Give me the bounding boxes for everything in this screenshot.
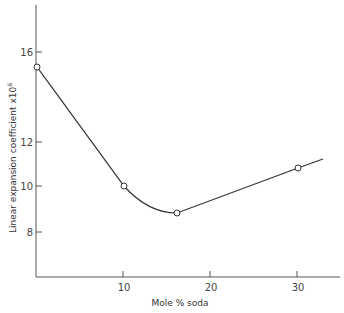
data-point <box>174 210 180 216</box>
y-axis-label-exponent: 6 <box>6 83 13 87</box>
y-axis-label: Linear expansion coefficient x10 <box>8 87 18 234</box>
data-point <box>121 183 127 189</box>
x-tick-label-20: 20 <box>205 282 218 293</box>
chart: 16 12 10 8 10 20 30 Mole % soda Linear e… <box>0 0 344 313</box>
x-tick-label-30: 30 <box>292 282 305 293</box>
svg-text:Linear expansion coefficient x: Linear expansion coefficient x106 <box>6 83 18 233</box>
x-tick-label-10: 10 <box>118 282 131 293</box>
y-tick-label-16: 16 <box>20 47 33 58</box>
data-markers <box>34 64 301 216</box>
data-point <box>34 64 40 70</box>
y-tick-label-12: 12 <box>20 137 33 148</box>
y-tick-label-10: 10 <box>20 181 33 192</box>
y-axis-label-group: Linear expansion coefficient x106 <box>6 83 18 233</box>
data-curve <box>37 67 323 213</box>
x-ticks: 10 20 30 <box>118 271 305 293</box>
y-tick-label-8: 8 <box>27 227 33 238</box>
y-ticks: 16 12 10 8 <box>20 47 42 238</box>
x-axis-label: Mole % soda <box>151 298 208 308</box>
data-point <box>295 165 301 171</box>
